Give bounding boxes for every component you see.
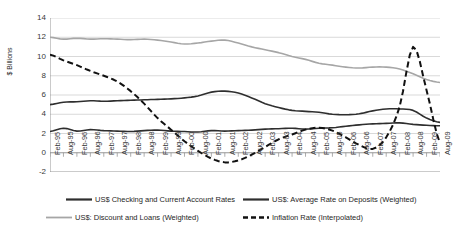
series-line bbox=[50, 91, 440, 122]
x-axis-tick-label: Aug-09 bbox=[443, 131, 452, 155]
y-axis-tick-label: 6 bbox=[28, 91, 46, 99]
legend-item-discount-and-loans: US$: Discount and Loans (Weighted) bbox=[46, 211, 199, 223]
legend-label: US$: Discount and Loans (Weighted) bbox=[75, 213, 199, 222]
x-axis-tick-label: Feb-03 bbox=[268, 132, 277, 155]
x-axis-tick-label: Aug-96 bbox=[93, 131, 102, 155]
solid-gray-line-icon bbox=[46, 213, 72, 222]
x-axis-tick-label: Feb-08 bbox=[403, 132, 412, 155]
x-axis-tick-label: Feb-01 bbox=[214, 132, 223, 155]
legend-label: US$ Checking and Current Account Rates bbox=[95, 195, 235, 204]
y-axis-tick-label: 12 bbox=[28, 33, 46, 41]
y-axis-tick-labels: -202468101214 bbox=[22, 0, 46, 175]
x-axis-tick-label: Feb-97 bbox=[107, 132, 116, 155]
x-axis-tick-label: Aug-00 bbox=[201, 131, 210, 155]
x-axis-tick-label: Feb-09 bbox=[430, 132, 439, 155]
x-axis-tick-label: Feb-04 bbox=[295, 132, 304, 155]
legend-label: Inflation Rate (Interpolated) bbox=[272, 213, 363, 222]
series-line bbox=[50, 123, 440, 132]
x-axis-tick-label: Aug-06 bbox=[362, 131, 371, 155]
x-axis-tick-label: Feb-02 bbox=[241, 132, 250, 155]
x-axis-tick-label: Aug-01 bbox=[228, 131, 237, 155]
y-axis-tick-label: 0 bbox=[28, 149, 46, 157]
solid-dark-line-icon bbox=[243, 195, 269, 204]
solid-dark-line-icon bbox=[66, 195, 92, 204]
x-axis-tick-label: Feb-07 bbox=[376, 132, 385, 155]
y-axis-title: $ Billions bbox=[6, 55, 13, 69]
dashed-line-icon bbox=[243, 213, 269, 222]
legend-label: US$: Average Rate on Deposits (Weighted) bbox=[272, 195, 416, 204]
x-axis-tick-label: Aug-07 bbox=[389, 131, 398, 155]
y-axis-tick-label: 2 bbox=[28, 130, 46, 138]
y-axis-tick-label: -2 bbox=[28, 168, 46, 176]
x-axis-tick-label: Feb-00 bbox=[187, 132, 196, 155]
x-axis-tick-labels: Feb-95Aug-95Feb-96Aug-96Feb-97Aug-97Feb-… bbox=[50, 155, 440, 197]
x-axis-tick-label: Aug-98 bbox=[147, 131, 156, 155]
legend-item-average-rate-on-deposits: US$: Average Rate on Deposits (Weighted) bbox=[243, 193, 416, 205]
x-axis-tick-label: Aug-03 bbox=[282, 131, 291, 155]
x-axis-tick-label: Aug-08 bbox=[416, 131, 425, 155]
x-axis-tick-label: Aug-97 bbox=[120, 131, 129, 155]
x-axis-tick-label: Feb-05 bbox=[322, 132, 331, 155]
y-axis-tick-label: 14 bbox=[28, 14, 46, 22]
y-axis-tick-label: 4 bbox=[28, 110, 46, 118]
x-axis-tick-label: Feb-95 bbox=[53, 132, 62, 155]
y-axis-title-label: $ Billions bbox=[6, 27, 13, 97]
x-axis-tick-label: Feb-99 bbox=[161, 132, 170, 155]
x-axis-tick-label: Aug-05 bbox=[335, 131, 344, 155]
legend-item-checking-and-current-account-rates: US$ Checking and Current Account Rates bbox=[66, 193, 235, 205]
chart-legend: US$ Checking and Current Account Rates U… bbox=[0, 193, 458, 233]
legend-item-inflation-rate: Inflation Rate (Interpolated) bbox=[243, 211, 363, 223]
x-axis-tick-label: Aug-95 bbox=[66, 131, 75, 155]
x-axis-tick-label: Feb-98 bbox=[134, 132, 143, 155]
y-axis-tick-label: 10 bbox=[28, 53, 46, 61]
x-axis-tick-label: Feb-06 bbox=[349, 132, 358, 155]
y-axis-tick-label: 8 bbox=[28, 72, 46, 80]
x-axis-tick-label: Aug-99 bbox=[174, 131, 183, 155]
chart-container: $ Billions -202468101214 Feb-95Aug-95Feb… bbox=[0, 0, 458, 234]
x-axis-tick-label: Feb-96 bbox=[80, 132, 89, 155]
x-axis-tick-label: Aug-02 bbox=[255, 131, 264, 155]
x-axis-tick-label: Aug-04 bbox=[309, 131, 318, 155]
